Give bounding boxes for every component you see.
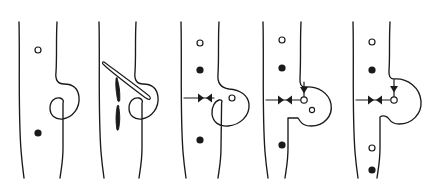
panel-2-dark-spindle-lower: [116, 105, 120, 130]
diagram-canvas: [0, 0, 436, 193]
panel-4-open-dot-top: [279, 37, 285, 43]
panel-3-filled-dot-upper: [196, 66, 203, 73]
panel-5-filled-dot-bottom: [368, 166, 375, 173]
panel-3-open-dot-inner: [229, 95, 235, 101]
panel-4-open-dot-junction: [301, 97, 307, 103]
panel-4-filled-dot-lower: [278, 141, 285, 148]
panel-1-open-dot: [35, 47, 41, 53]
panel-5-open-dot-junction: [391, 97, 397, 103]
panel-4-open-dot-inner: [309, 107, 314, 112]
panel-5-open-dot-top: [369, 39, 375, 45]
canvas-background: [0, 0, 436, 193]
panel-3-open-dot-top: [197, 40, 203, 46]
panel-5-filled-dot-upper: [368, 66, 375, 73]
panel-5-open-dot-lower: [369, 145, 375, 151]
diagram-figure: [0, 0, 436, 193]
panel-1-filled-dot: [34, 129, 41, 136]
panel-3-filled-dot-lower: [196, 136, 203, 143]
panel-4-filled-dot-upper: [278, 64, 285, 71]
